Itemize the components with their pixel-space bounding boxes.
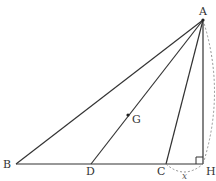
label-d: D: [86, 165, 95, 178]
label-x: x: [182, 171, 187, 181]
geometry-diagram: A B D C H G x: [0, 0, 216, 181]
label-g: G: [132, 113, 141, 126]
right-angle-mark: [196, 157, 203, 164]
segment-ab: [16, 20, 203, 164]
label-c: C: [157, 165, 165, 178]
segment-ad: [91, 20, 203, 164]
dashed-arc-ah: [203, 20, 215, 164]
label-a: A: [198, 5, 208, 18]
point-a-dot: [201, 18, 204, 21]
label-h: H: [206, 165, 216, 178]
segment-ac: [166, 20, 203, 164]
label-b: B: [3, 158, 11, 171]
point-g-dot: [126, 113, 129, 116]
